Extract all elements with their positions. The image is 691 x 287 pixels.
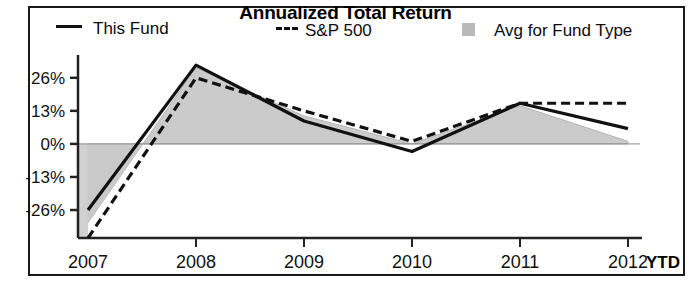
svg-text:2007: 2007 (68, 252, 108, 272)
svg-text:2011: 2011 (501, 252, 540, 272)
svg-text:26%: 26% (31, 69, 65, 88)
x-axis-labels: 200720082009201020112012YTD (68, 252, 680, 272)
svg-text:2012: 2012 (608, 252, 648, 272)
svg-text:2008: 2008 (176, 252, 216, 272)
axis-lines (78, 55, 642, 238)
svg-text:13%: 13% (31, 102, 65, 121)
area-series-avg-fund-type (78, 68, 628, 238)
svg-text:-26%: -26% (25, 201, 65, 220)
y-axis-labels: 26%13%0%-13%-26% (25, 69, 65, 220)
svg-text:2009: 2009 (284, 252, 324, 272)
chart-plot: 26%13%0%-13%-26% 20072008200920102011201… (0, 0, 691, 287)
svg-text:-13%: -13% (25, 168, 65, 187)
svg-text:YTD: YTD (646, 253, 680, 272)
svg-text:2010: 2010 (392, 252, 432, 272)
svg-text:0%: 0% (40, 135, 65, 154)
x-axis-ticks (196, 238, 628, 247)
chart-screenshot: Annualized Total Return This Fund S&P 50… (0, 0, 691, 287)
